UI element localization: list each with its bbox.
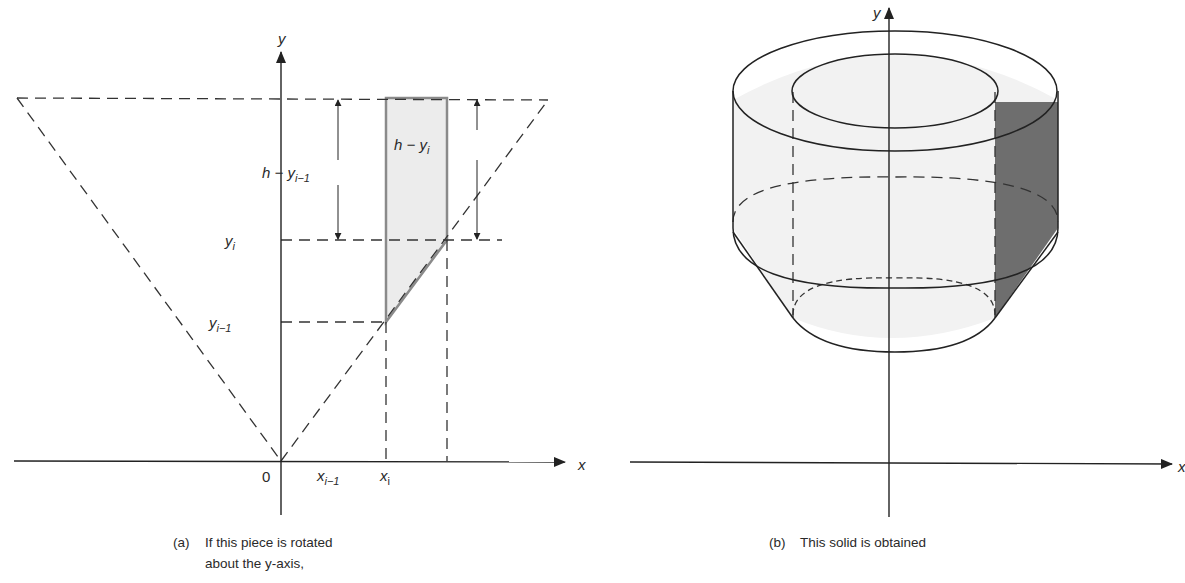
y-axis-label-b: y	[872, 4, 882, 21]
xi-label: xi	[379, 467, 390, 487]
yi1-label: yi−1	[208, 314, 232, 334]
dimension-label-h-minus-yi1: h − yi−1	[262, 164, 310, 184]
cone-top-edge	[17, 98, 548, 100]
yi-label: yi	[224, 232, 236, 252]
caption-b-marker: (b)	[769, 535, 786, 550]
xi1-label: xi−1	[316, 467, 340, 487]
x-axis	[14, 461, 565, 462]
y-axis-label: y	[277, 30, 287, 47]
figure-b: y x (b) This solid is obtained	[630, 4, 1185, 550]
cross-section-shaded	[995, 102, 1058, 318]
caption-a-line1: If this piece is rotated	[205, 535, 333, 550]
figure-canvas: y x 0 yi yi−1 xi−1 xi h − yi−1 h − yi (a…	[0, 0, 1185, 583]
caption-a-marker: (a)	[173, 535, 190, 550]
caption-a-line2: about the y-axis,	[205, 556, 304, 571]
x-axis-b	[630, 462, 1172, 464]
x-axis-label-b: x	[1177, 458, 1185, 475]
x-axis-label: x	[577, 456, 586, 473]
caption-b-text: This solid is obtained	[800, 535, 926, 550]
figure-a: y x 0 yi yi−1 xi−1 xi h − yi−1 h − yi (a…	[14, 30, 586, 571]
cone-left-edge	[17, 98, 281, 461]
origin-label: 0	[262, 468, 270, 485]
shaded-piece	[386, 98, 447, 322]
